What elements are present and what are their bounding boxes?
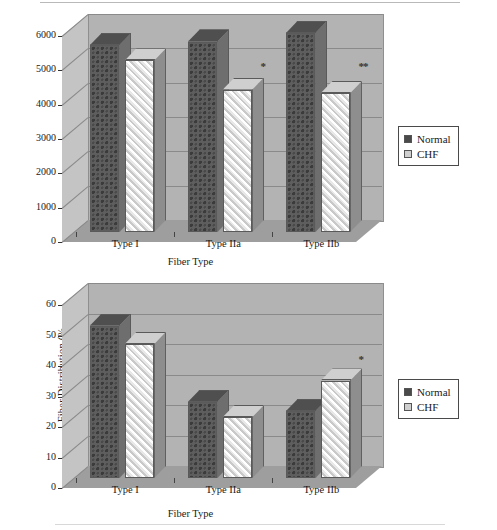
bar-side-face	[350, 81, 362, 232]
y-tick-label: 4000	[18, 98, 56, 109]
legend-label-chf: CHF	[417, 401, 438, 413]
bar-normal-type-iib	[286, 411, 315, 478]
bar-side-face	[252, 405, 264, 478]
bar-front-face	[125, 60, 154, 232]
y-tick-label: 30	[18, 390, 56, 401]
y-tick-mark	[58, 488, 62, 489]
bar-front-face	[188, 402, 217, 478]
top-divider-rule	[40, 2, 460, 3]
x-tick-label: Type IIa	[174, 238, 272, 249]
y-tick-mark	[58, 397, 62, 398]
y-tick-label: 10	[18, 451, 56, 462]
y-tick-mark	[58, 70, 62, 71]
bar-normal-type-iib	[286, 33, 315, 232]
x-tick-mark	[76, 232, 77, 237]
bar-chf-type-iib	[321, 93, 350, 232]
significance-marker: *	[260, 60, 265, 72]
x-tick-mark	[174, 232, 175, 237]
y-tick-label: 3000	[18, 132, 56, 143]
bar-normal-type-i	[90, 326, 119, 479]
fiber-area-figure: Fiber Area (square micrometer) Fiber Typ…	[0, 8, 497, 273]
legend-bottom: Normal CHF	[398, 379, 459, 419]
fiber-distribution-figure: Fiber Distribution (% Fiber Type 0102030…	[0, 275, 497, 530]
bar-front-face	[188, 42, 217, 233]
x-tick-mark	[272, 478, 273, 483]
bar-chf-type-i	[125, 60, 154, 232]
legend-label-normal: Normal	[417, 133, 451, 145]
plot-area-top: 0100020003000400050006000Type IType IIaT…	[62, 14, 382, 242]
bar-chf-type-iib	[321, 381, 350, 479]
plot-area-bottom: 0102030405060Type IType IIaType IIb*	[62, 283, 382, 488]
bar-front-face	[90, 45, 119, 232]
x-axis-title-top: Fiber Type	[0, 256, 439, 267]
legend-top: Normal CHF	[398, 126, 459, 166]
y-gridline	[88, 314, 382, 315]
y-tick-mark	[58, 458, 62, 459]
bar-chf-type-iia	[223, 417, 252, 478]
y-tick-mark	[58, 36, 62, 37]
x-tick-label: Type IIb	[272, 484, 370, 495]
significance-marker: **	[358, 60, 367, 72]
x-tick-label: Type IIa	[174, 484, 272, 495]
bar-side-face	[252, 78, 264, 233]
x-tick-label: Type I	[76, 484, 174, 495]
legend-swatch-chf-icon	[404, 150, 412, 158]
significance-marker: *	[358, 353, 363, 365]
x-tick-mark	[174, 478, 175, 483]
y-tick-label: 5000	[18, 63, 56, 74]
bar-front-face	[223, 90, 252, 232]
legend-item-chf: CHF	[404, 146, 451, 161]
y-tick-mark	[58, 242, 62, 243]
y-tick-label: 40	[18, 359, 56, 370]
bar-normal-type-iia	[188, 42, 217, 233]
bar-chf-type-i	[125, 344, 154, 478]
y-tick-mark	[58, 305, 62, 306]
y-tick-mark	[58, 366, 62, 367]
bar-front-face	[286, 33, 315, 232]
legend-label-normal: Normal	[417, 386, 451, 398]
y-gridline	[88, 283, 382, 284]
y-tick-label: 0	[18, 235, 56, 246]
bar-normal-type-iia	[188, 402, 217, 478]
bar-front-face	[321, 381, 350, 479]
y-tick-mark	[58, 336, 62, 337]
legend-item-normal: Normal	[404, 131, 451, 146]
y-tick-label: 20	[18, 420, 56, 431]
y-tick-label: 50	[18, 329, 56, 340]
bar-front-face	[125, 344, 154, 478]
legend-item-normal: Normal	[404, 384, 451, 399]
bar-side-face	[350, 368, 362, 478]
y-tick-mark	[58, 139, 62, 140]
x-tick-label: Type I	[76, 238, 174, 249]
bar-side-face	[154, 332, 166, 478]
y-tick-label: 6000	[18, 29, 56, 40]
y-tick-mark	[58, 105, 62, 106]
bar-normal-type-i	[90, 45, 119, 232]
bar-chf-type-iia	[223, 90, 252, 232]
bottom-divider-rule	[55, 524, 445, 525]
x-tick-label: Type IIb	[272, 238, 370, 249]
y-tick-label: 60	[18, 298, 56, 309]
legend-item-chf: CHF	[404, 399, 451, 414]
y-tick-mark	[58, 427, 62, 428]
y-tick-label: 0	[18, 481, 56, 492]
legend-swatch-chf-icon	[404, 403, 412, 411]
x-tick-mark	[272, 232, 273, 237]
x-tick-mark	[76, 478, 77, 483]
x-axis-title-bottom: Fiber Type	[0, 508, 439, 519]
legend-label-chf: CHF	[417, 148, 438, 160]
bar-front-face	[321, 93, 350, 232]
bar-front-face	[90, 326, 119, 479]
y-tick-label: 2000	[18, 166, 56, 177]
bar-side-face	[154, 48, 166, 232]
y-gridline	[88, 14, 382, 15]
y-tick-mark	[58, 208, 62, 209]
bar-front-face	[286, 411, 315, 478]
bar-front-face	[223, 417, 252, 478]
legend-swatch-normal-icon	[404, 135, 412, 143]
y-gridline	[88, 48, 382, 49]
legend-swatch-normal-icon	[404, 388, 412, 396]
y-tick-mark	[58, 173, 62, 174]
y-tick-label: 1000	[18, 201, 56, 212]
